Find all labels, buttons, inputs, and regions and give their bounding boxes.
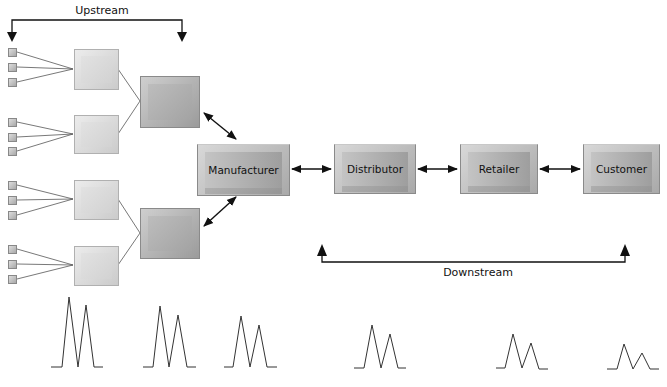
waveform-1 [51, 297, 103, 367]
waveform-5 [496, 334, 548, 369]
supplier-square [8, 260, 17, 269]
downstream-bracket [317, 244, 630, 262]
customer-label: Customer [584, 145, 659, 193]
supplier-square [8, 275, 17, 284]
waveform-4 [354, 325, 406, 368]
retailer-label: Retailer [461, 145, 537, 193]
supplier-square [8, 118, 17, 127]
supplier-square [8, 147, 17, 156]
supplier-square [8, 63, 17, 72]
supplier-square [8, 245, 17, 254]
supplier-square [8, 133, 17, 142]
waveform-3 [224, 316, 277, 367]
demand-waveforms [51, 297, 659, 369]
downstream-label: Downstream [428, 266, 528, 279]
supplier-square [8, 196, 17, 205]
supplier-square [8, 181, 17, 190]
distributor-node: Distributor [334, 144, 416, 194]
tier2-supplier-box [74, 246, 119, 286]
tier1-supplier-box [140, 208, 200, 259]
manufacturer-node: Manufacturer [197, 144, 290, 196]
tier2-supplier-box [74, 180, 119, 220]
tier2-supplier-box [74, 49, 119, 90]
supplier-square [8, 211, 17, 220]
supplier-square [8, 48, 17, 57]
tier2-supplier-box [74, 115, 119, 154]
waveform-2 [143, 306, 196, 367]
supplier-square [8, 78, 17, 87]
distributor-label: Distributor [335, 145, 415, 193]
customer-node: Customer [583, 144, 660, 194]
manufacturer-label: Manufacturer [198, 145, 289, 195]
retailer-node: Retailer [460, 144, 538, 194]
tier1-supplier-box [140, 76, 200, 128]
upstream-label: Upstream [62, 4, 142, 17]
upstream-bracket [7, 20, 187, 42]
waveform-6 [607, 344, 659, 369]
